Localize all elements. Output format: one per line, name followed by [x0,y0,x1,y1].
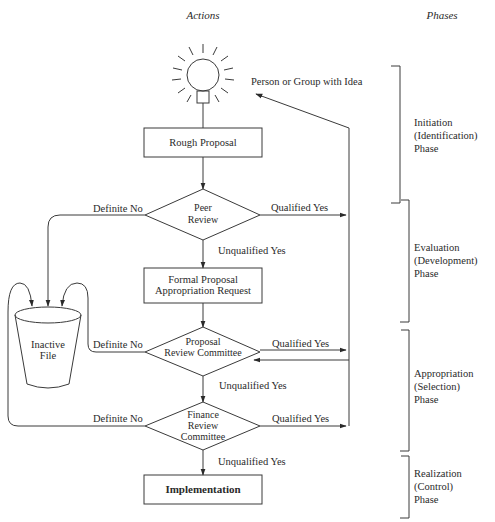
appropriation-bracket [400,330,409,451]
proposal-definite-no: Definite No [93,339,143,350]
phase-evaluation-name: Evaluation [414,242,460,253]
rough-proposal-label: Rough Proposal [169,137,236,148]
peer-review-label-2: Review [188,214,219,225]
realization-bracket [400,456,409,518]
phase-initiation-suffix: Phase [414,143,439,154]
formal-proposal-label-1: Formal Proposal [168,274,238,285]
proposal-review-label-1: Proposal [186,336,221,347]
peer-review-label-1: Peer [194,202,212,213]
proposal-review-label-2: Review Committee [164,347,242,358]
phase-appropriation-suffix: Phase [414,394,439,405]
inactive-file-label-2: File [40,350,57,361]
peer-unqualified-yes: Unqualified Yes [218,245,286,256]
finance-review-label-1: Finance [187,409,219,420]
phases-header: Phases [425,9,457,21]
phase-realization-suffix: Phase [414,494,439,505]
phase-evaluation-sub: (Development) [414,255,478,267]
formal-proposal-label-2: Appropriation Request [155,285,251,296]
peer-qualified-yes: Qualified Yes [271,202,328,213]
finance-unqualified-yes: Unqualified Yes [218,456,286,467]
inactive-file-label-1: Inactive [31,339,65,350]
finance-qualified-yes: Qualified Yes [272,413,329,424]
phase-realization-sub: (Control) [414,481,454,493]
phase-realization-name: Realization [414,468,463,479]
idea-label: Person or Group with Idea [251,76,363,87]
phase-appropriation-sub: (Selection) [414,381,461,393]
actions-header: Actions [186,9,220,21]
finance-definite-no: Definite No [93,413,143,424]
finance-review-label-3: Committee [181,431,226,442]
phase-initiation-name: Initiation [414,117,453,128]
implementation-label: Implementation [165,483,240,495]
phase-appropriation-name: Appropriation [414,368,474,379]
lightbulb-icon [172,44,234,103]
initiation-bracket [391,66,400,203]
evaluation-bracket [400,200,409,322]
phase-initiation-sub: (Identification) [414,130,478,142]
finance-review-label-2: Review [188,420,219,431]
phase-evaluation-suffix: Phase [414,268,439,279]
capital-budgeting-flowchart: Actions Phases Person or Group with Idea [0,0,495,522]
proposal-unqualified-yes: Unqualified Yes [219,380,287,391]
proposal-qualified-yes: Qualified Yes [272,338,329,349]
peer-definite-no: Definite No [93,203,143,214]
